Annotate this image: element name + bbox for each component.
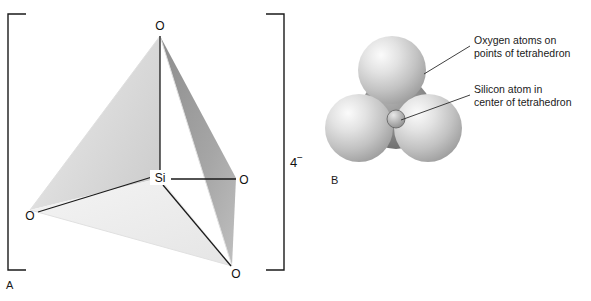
sphere-oxygen-top bbox=[358, 36, 426, 104]
callout-silicon-line-2: center of tetrahedron bbox=[474, 96, 572, 108]
silicate-tetrahedron-figure: O O O O Si 4 − A bbox=[0, 0, 591, 301]
panel-a-letter: A bbox=[6, 279, 14, 291]
charge-sign: − bbox=[297, 152, 303, 163]
atom-label-si: Si bbox=[155, 171, 166, 185]
panel-b-letter: B bbox=[331, 174, 338, 186]
panel-b-space-filling: Oxygen atoms on points of tetrahedron Si… bbox=[325, 34, 572, 186]
sphere-silicon-center bbox=[387, 110, 405, 128]
callout-oxygen-line-1: Oxygen atoms on bbox=[474, 34, 556, 46]
leader-line-oxygen bbox=[424, 46, 470, 74]
figure-canvas: O O O O Si 4 − A bbox=[0, 0, 591, 301]
callout-silicon-line-1: Silicon atom in bbox=[474, 83, 542, 95]
atom-label-o-bottom: O bbox=[231, 267, 240, 281]
sphere-oxygen-bottom-right bbox=[394, 94, 462, 162]
sphere-oxygen-bottom-left bbox=[325, 94, 393, 162]
bracket-left bbox=[8, 14, 26, 270]
atom-label-o-top: O bbox=[155, 19, 164, 33]
panel-a-tetrahedron: O O O O Si 4 − A bbox=[6, 14, 303, 291]
callout-oxygen-line-2: points of tetrahedron bbox=[474, 47, 570, 59]
atom-label-o-right: O bbox=[239, 173, 248, 187]
atom-label-o-left: O bbox=[25, 209, 34, 223]
bracket-right bbox=[266, 14, 284, 270]
